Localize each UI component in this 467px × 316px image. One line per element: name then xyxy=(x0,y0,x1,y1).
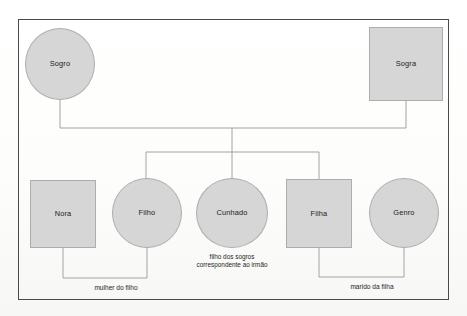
node-label-sogro: Sogro xyxy=(50,60,70,67)
node-label-filho: Filho xyxy=(139,209,156,216)
node-sogra[interactable]: Sogra xyxy=(369,27,443,101)
caption-cunhado-line-2: correspondente ao irmão xyxy=(196,261,267,269)
node-genro[interactable]: Genro xyxy=(369,178,439,248)
edge-label-marido-da-filha: marido da filha xyxy=(350,284,393,291)
node-cunhado[interactable]: Cunhado xyxy=(196,178,268,248)
connector-filha-genro xyxy=(319,247,404,277)
node-label-genro: Genro xyxy=(393,209,414,216)
diagram-screenshot: Sogro Sogra Nora Filho Cunhado Filha Gen… xyxy=(0,0,467,316)
node-label-nora: Nora xyxy=(55,210,72,217)
node-filha[interactable]: Filha xyxy=(286,179,352,248)
node-label-sogra: Sogra xyxy=(396,60,416,67)
connector-nora-filho xyxy=(63,247,147,278)
node-label-filha: Filha xyxy=(311,209,328,216)
node-filho[interactable]: Filho xyxy=(112,178,182,248)
edge-label-mulher-do-filho: mulher do filho xyxy=(94,285,137,292)
node-nora[interactable]: Nora xyxy=(30,180,96,248)
node-sogro[interactable]: Sogro xyxy=(25,28,95,100)
node-label-cunhado: Cunhado xyxy=(216,209,247,216)
caption-cunhado-line-1: filho dos sogros xyxy=(196,253,267,261)
caption-cunhado: filho dos sogros correspondente ao irmão xyxy=(196,253,267,270)
